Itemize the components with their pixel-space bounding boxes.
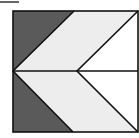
chevron-tile-diagram [0,0,139,138]
